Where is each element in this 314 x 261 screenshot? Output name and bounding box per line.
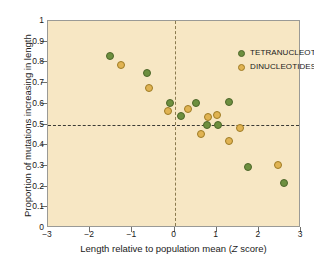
x-axis-title-main: Length relative to population mean ( [80, 243, 232, 254]
y-tick-label: 0.1 [32, 202, 44, 211]
data-point-di [274, 161, 282, 169]
y-tick-label: 0.2 [32, 181, 44, 190]
x-tick-label: 3 [298, 230, 303, 239]
legend-marker-tetra-icon [238, 50, 245, 57]
data-point-tetra [214, 121, 222, 129]
reference-line-vertical-zero [175, 21, 176, 226]
data-point-tetra [177, 112, 185, 120]
legend-label: TETRANUCLEOTIDES [250, 49, 314, 57]
data-point-tetra [106, 52, 114, 60]
y-axis-tick-labels: 00.10.20.30.40.50.60.70.80.91 [0, 20, 44, 227]
data-point-di [117, 61, 125, 69]
y-tick-label: 0.8 [32, 57, 44, 66]
data-point-tetra [166, 99, 174, 107]
scatter-chart-figure: Proportion of mutations increasing in le… [0, 0, 314, 261]
x-tick-label: −1 [126, 230, 136, 239]
legend-item-di[interactable]: DINUCLEOTIDES [238, 63, 314, 71]
y-tick-label: 0.4 [32, 140, 44, 149]
x-axis-title: Length relative to population mean (Z sc… [47, 244, 300, 254]
data-point-di [236, 124, 244, 132]
legend: TETRANUCLEOTIDESDINUCLEOTIDES [238, 49, 314, 71]
x-tick-label: −3 [42, 230, 52, 239]
data-point-di [164, 107, 172, 115]
data-point-tetra [244, 163, 252, 171]
legend-marker-di-icon [238, 64, 245, 71]
legend-label: DINUCLEOTIDES [250, 63, 314, 71]
data-point-tetra [192, 99, 200, 107]
reference-line-horizontal-half [48, 125, 299, 126]
data-point-tetra [280, 179, 288, 187]
data-point-tetra [225, 98, 233, 106]
y-tick-label: 0.3 [32, 161, 44, 170]
y-tick-label: 0.7 [32, 78, 44, 87]
data-point-di [204, 113, 212, 121]
data-point-di [197, 130, 205, 138]
x-tick-label: 1 [213, 230, 218, 239]
x-axis-title-tail: score) [238, 243, 267, 254]
data-point-di [145, 84, 153, 92]
x-tick-label: 2 [255, 230, 260, 239]
data-point-tetra [203, 121, 211, 129]
x-tick-label: 0 [171, 230, 176, 239]
plot-area: TETRANUCLEOTIDESDINUCLEOTIDES [47, 20, 300, 227]
legend-item-tetra[interactable]: TETRANUCLEOTIDES [238, 49, 314, 57]
y-tick-label: 0.9 [32, 36, 44, 45]
data-point-di [225, 137, 233, 145]
x-axis-tick-labels: −3−2−10123 [47, 230, 300, 242]
x-tick-label: −2 [84, 230, 94, 239]
y-tick-label: 0.6 [32, 99, 44, 108]
data-point-tetra [143, 69, 151, 77]
y-tick-label: 1 [39, 16, 44, 25]
y-tick-label: 0.5 [32, 119, 44, 128]
data-point-di [213, 111, 221, 119]
data-point-di [184, 105, 192, 113]
